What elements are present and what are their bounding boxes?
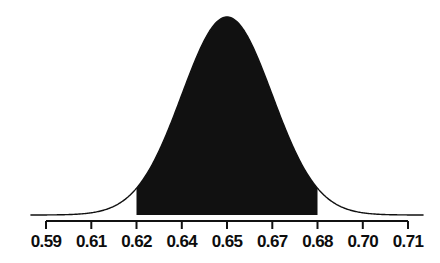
axis-group (46, 221, 408, 229)
normal-distribution-chart: 0.590.610.620.640.650.670.680.700.71 (0, 0, 440, 263)
shaded-region-area (137, 17, 318, 215)
x-axis-ticks (46, 221, 408, 229)
distribution-curve-svg (0, 0, 440, 263)
shaded-area-group (137, 17, 318, 215)
